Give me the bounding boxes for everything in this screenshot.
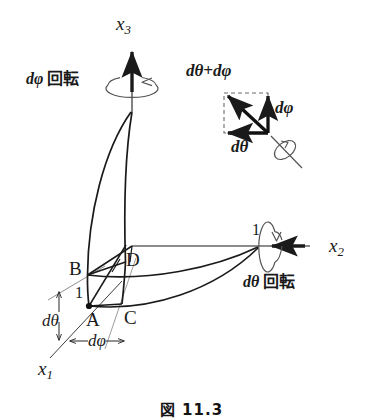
rotation-ellipse-x2-arrowhead: [272, 232, 281, 241]
vector-inset-dtheta-label: dθ: [231, 138, 248, 155]
figure-caption: 図 11.3: [0, 398, 383, 419]
arc-B-to-unit-x2: [88, 247, 259, 277]
axis-label-x2-subscript: 2: [337, 244, 343, 259]
vector-resultant-arrow: [228, 96, 268, 133]
unit-tick-label-x1: 1: [75, 285, 83, 301]
arc-D-to-C: [122, 262, 126, 304]
annotation-dphi-rotation-word: 回転: [47, 69, 79, 88]
unit-tick-label-x2: 1: [252, 222, 260, 238]
chord-A-to-C: [89, 304, 122, 306]
rotation-ellipse-x3-upper-left: [108, 78, 120, 85]
measure-label-dtheta: dθ: [42, 312, 59, 329]
vector-inset-resultant-label: dθ+dφ: [186, 62, 231, 79]
point-label-D: D: [126, 250, 140, 269]
annotation-dtheta-rotation-word: 回転: [263, 272, 295, 291]
point-label-B: B: [69, 259, 82, 278]
point-label-C: C: [124, 308, 137, 327]
inset-rotation-axis-marker: [271, 136, 302, 168]
axis-label-x3-subscript: 3: [124, 22, 130, 37]
point-label-A: A: [86, 310, 100, 329]
annotation-dtheta-rotation-math: dθ: [243, 273, 259, 290]
annotation-dtheta-rotation: dθ回転: [243, 274, 295, 290]
vector-inset-dphi-label: dφ: [275, 99, 293, 116]
axis-label-x1-subscript: 1: [46, 367, 52, 382]
axis-label-x2: x2: [329, 236, 344, 259]
axis-label-x1: x1: [38, 359, 53, 382]
chord-B-to-D: [88, 262, 126, 275]
annotation-dphi-rotation: dφ回転: [26, 71, 79, 87]
arc-apex-to-D: [125, 112, 132, 262]
arc-B-to-A: [87, 275, 89, 306]
annotation-dphi-rotation-math: dφ: [26, 70, 43, 87]
measure-label-dphi: dφ: [88, 332, 106, 349]
rotation-ellipse-x2-right-lower: [275, 246, 282, 262]
axis-label-x3: x3: [116, 14, 131, 37]
